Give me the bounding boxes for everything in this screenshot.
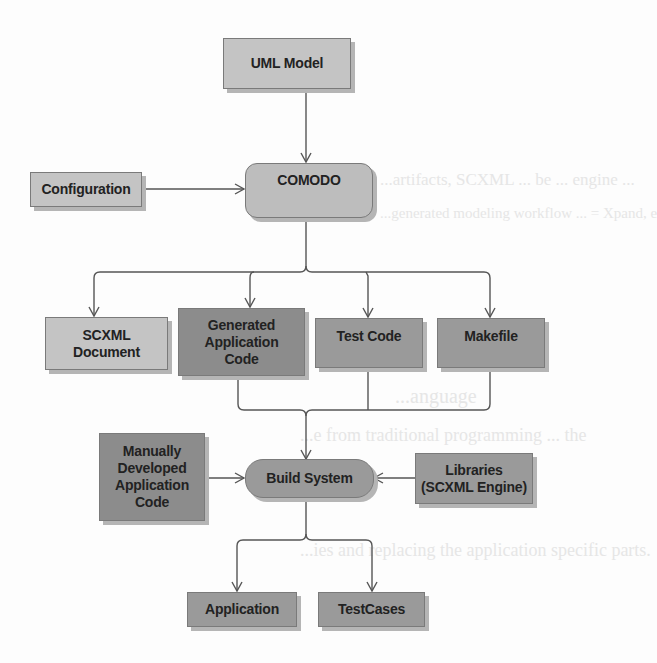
test-code-node: Test Code xyxy=(315,318,423,368)
configuration-label: Configuration xyxy=(41,181,130,198)
makefile-node: Makefile xyxy=(437,318,545,368)
manual-code-line2: Developed xyxy=(118,460,187,477)
generated-application-code-node: Generated Application Code xyxy=(178,308,305,376)
manual-code-line4: Code xyxy=(135,494,169,511)
testcases-label: TestCases xyxy=(338,601,405,618)
testcases-node: TestCases xyxy=(318,592,425,627)
scxml-document-label-line2: Document xyxy=(73,344,140,361)
build-system-label: Build System xyxy=(266,470,352,487)
scxml-document-node: SCXML Document xyxy=(45,317,168,370)
manually-developed-code-node: Manually Developed Application Code xyxy=(99,433,205,521)
manual-code-line1: Manually xyxy=(123,443,181,460)
build-system-node: Build System xyxy=(245,459,374,498)
generated-app-code-line2: Application xyxy=(204,334,278,351)
libraries-label-line2: (SCXML Engine) xyxy=(421,479,527,496)
manual-code-line3: Application xyxy=(115,477,189,494)
libraries-label-line1: Libraries xyxy=(445,462,502,479)
application-label: Application xyxy=(205,601,279,618)
application-node: Application xyxy=(187,592,297,627)
test-code-label: Test Code xyxy=(337,328,402,345)
comodo-label: COMODO xyxy=(277,172,340,189)
uml-model-node: UML Model xyxy=(223,38,351,89)
makefile-label: Makefile xyxy=(464,328,518,345)
configuration-node: Configuration xyxy=(30,172,142,207)
scxml-document-label-line1: SCXML xyxy=(82,327,130,344)
libraries-node: Libraries (SCXML Engine) xyxy=(415,453,533,504)
uml-model-label: UML Model xyxy=(251,55,324,72)
comodo-node: COMODO xyxy=(245,163,373,218)
generated-app-code-line3: Code xyxy=(224,351,258,368)
generated-app-code-line1: Generated xyxy=(208,317,275,334)
